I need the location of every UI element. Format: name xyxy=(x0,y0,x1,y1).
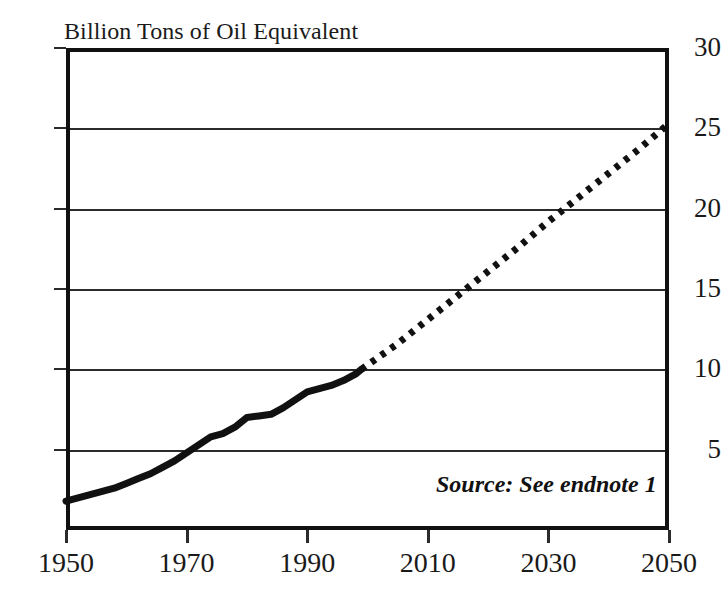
gridline xyxy=(70,209,665,211)
x-axis-tick-label: 1950 xyxy=(20,548,112,578)
chart-figure: Billion Tons of Oil Equivalent 510152025… xyxy=(0,0,721,608)
gridline xyxy=(70,289,665,291)
gridline xyxy=(70,450,665,452)
x-axis-tick xyxy=(547,530,550,543)
x-axis-tick xyxy=(306,530,309,543)
y-axis-tick-label: 30 xyxy=(673,34,721,61)
y-axis-tick xyxy=(54,449,66,451)
y-axis-tick-label: 15 xyxy=(673,275,721,302)
y-axis-tick xyxy=(54,47,66,49)
x-axis-tick-label: 2050 xyxy=(623,548,715,578)
x-axis-tick-label: 1990 xyxy=(261,548,353,578)
plot-area xyxy=(66,48,669,530)
x-axis-tick xyxy=(186,530,189,543)
x-axis-tick xyxy=(65,530,68,543)
y-axis-tick-label: 25 xyxy=(673,114,721,141)
y-axis-tick-label: 5 xyxy=(673,436,721,463)
y-axis-tick xyxy=(54,208,66,210)
x-axis-tick xyxy=(668,530,671,543)
chart-title: Billion Tons of Oil Equivalent xyxy=(64,17,358,45)
x-axis-tick-label: 2010 xyxy=(382,548,474,578)
gridline xyxy=(70,128,665,130)
gridline xyxy=(70,369,665,371)
x-axis-tick xyxy=(427,530,430,543)
y-axis-tick-label: 10 xyxy=(673,355,721,382)
y-axis-tick xyxy=(54,127,66,129)
y-axis-tick xyxy=(54,368,66,370)
y-axis-tick-label: 20 xyxy=(673,195,721,222)
source-annotation: Source: See endnote 1 xyxy=(436,470,657,498)
y-axis-tick xyxy=(54,288,66,290)
x-axis-tick-label: 1970 xyxy=(141,548,233,578)
x-axis-tick-label: 2030 xyxy=(502,548,594,578)
